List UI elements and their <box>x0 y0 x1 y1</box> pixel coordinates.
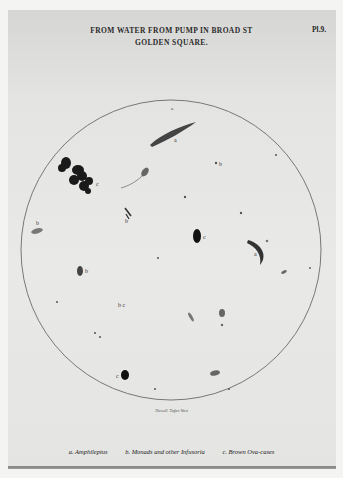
svg-text:a: a <box>174 137 177 143</box>
engraver-credit: Hassall. Tuffen West <box>0 408 343 413</box>
plate-legend: a. Amphileptus b. Monads and other Infus… <box>0 448 343 455</box>
microscope-field: c a a b b c a b b b c c <box>0 0 343 478</box>
svg-text:b: b <box>85 268 88 274</box>
ova-cluster <box>58 157 93 194</box>
svg-text:b c: b c <box>118 302 126 308</box>
svg-text:a: a <box>254 251 257 257</box>
svg-text:b: b <box>125 218 128 224</box>
svg-text:c: c <box>116 373 119 379</box>
svg-text:a: a <box>171 106 174 111</box>
legend-b: b. Monads and other Infusoria <box>125 448 205 455</box>
field-circle <box>21 100 321 400</box>
svg-text:c: c <box>96 181 99 187</box>
svg-text:c: c <box>203 234 206 240</box>
svg-text:b: b <box>36 220 39 226</box>
svg-text:b: b <box>219 161 222 167</box>
legend-c: c. Brown Ova-cases <box>222 448 274 455</box>
legend-a: a. Amphileptus <box>69 448 108 455</box>
amphileptus-top <box>150 122 196 147</box>
